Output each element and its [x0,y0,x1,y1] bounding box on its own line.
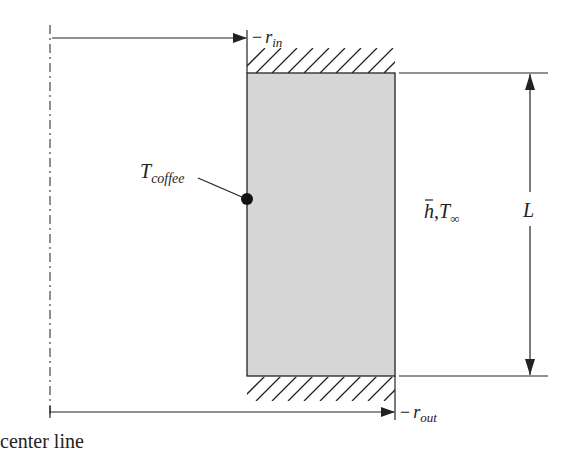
center-line-label: center line [0,430,84,452]
cup-wall [247,73,395,376]
r-out-label: −rout [400,402,437,425]
coffee-cup-wall-diagram: −rin −rout Tcoffee h,T∞ L center line [0,0,565,457]
svg-text:h,T∞: h,T∞ [424,200,459,226]
t-coffee-point [241,193,253,205]
bottom-insulation-hatch [240,376,409,401]
convection-label: h,T∞ [424,200,459,226]
length-label: L [522,199,534,221]
r-in-label: −rin [252,27,282,50]
t-coffee-leader [198,178,242,197]
t-coffee-label: Tcoffee [140,160,185,186]
top-insulation-hatch [240,48,409,73]
